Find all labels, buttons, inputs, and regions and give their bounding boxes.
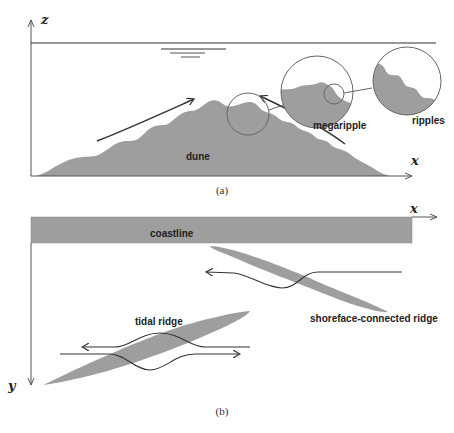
connector-line-1 <box>269 105 283 110</box>
megaripple-label: megaripple <box>313 120 367 131</box>
coastline-label: coastline <box>150 228 194 239</box>
caption-b: (b) <box>216 405 229 418</box>
x-axis-label-a: x <box>410 153 419 168</box>
caption-a: (a) <box>216 184 229 197</box>
bedform-diagram: z x dune megaripple <box>0 0 454 433</box>
panel-a: z x dune megaripple <box>31 12 450 197</box>
tidal-ridge-label: tidal ridge <box>135 316 183 327</box>
water-level-symbol <box>161 49 226 57</box>
panel-b: coastline x y shoreface-connected ridge … <box>7 201 438 418</box>
dune-label: dune <box>186 151 210 162</box>
connector-line-2 <box>344 88 372 93</box>
y-axis-label: y <box>7 378 17 393</box>
shoreface-ridge-label: shoreface-connected ridge <box>310 313 438 324</box>
x-axis-label-b: x <box>409 201 418 216</box>
z-axis-label: z <box>40 12 49 27</box>
shoreface-ridge-shape <box>210 246 388 312</box>
ripples-label: ripples <box>412 115 445 126</box>
coastline-band <box>31 217 412 243</box>
